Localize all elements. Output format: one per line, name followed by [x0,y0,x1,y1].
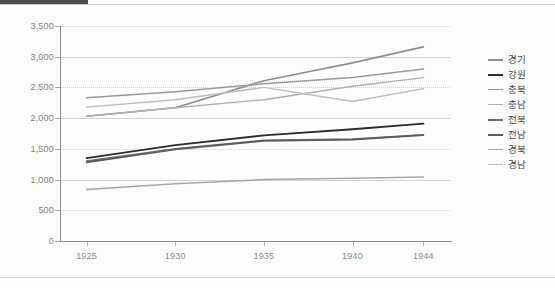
line-chart: 05001,0001,5002,0002,5003,0003,500 19251… [0,8,555,280]
y-axis-tick-label: 1,500 [8,144,54,154]
y-axis-tick-label: 2,000 [8,113,54,123]
x-axis-line [60,241,452,242]
legend-item-label: 충북 [508,85,526,95]
legend-item[interactable]: 충남 [488,97,552,112]
legend-item[interactable]: 충북 [488,82,552,97]
legend-swatch-icon [488,119,503,121]
x-axis-tick-label: 1940 [323,251,383,261]
chart-legend: 경기강원충북충남전북전남경북경남 [488,52,552,172]
x-axis-tick-label: 1925 [57,251,117,261]
x-axis-tick-label: 1930 [145,251,205,261]
y-axis-tick-label: 3,000 [8,52,54,62]
series-line [87,47,424,116]
series-line [87,177,424,189]
top-divider-rule [0,4,555,5]
legend-swatch-icon [488,149,503,150]
y-axis-tick-label: 2,500 [8,82,54,92]
chart-page: 05001,0001,5002,0002,5003,0003,500 19251… [0,0,555,288]
bottom-divider-rule [0,277,555,278]
legend-item-label: 전남 [508,130,526,140]
legend-swatch-icon [488,74,503,76]
series-line [87,135,424,162]
legend-swatch-icon [488,89,503,90]
x-axis-tick-label: 1944 [393,251,453,261]
y-axis-tick-label: 1,000 [8,175,54,185]
legend-swatch-icon [488,59,503,61]
series-lines [60,26,450,241]
y-axis-tick-label: 3,500 [8,21,54,31]
legend-item-label: 강원 [508,70,526,80]
x-axis-tick-label: 1935 [234,251,294,261]
legend-item[interactable]: 전남 [488,127,552,142]
legend-item[interactable]: 강원 [488,67,552,82]
legend-item[interactable]: 경남 [488,157,552,172]
y-axis-tick-mark [55,241,60,242]
y-axis-tick-label: 500 [8,205,54,215]
x-axis-tick-mark [87,241,88,246]
x-axis-tick-mark [423,241,424,246]
legend-item-label: 전북 [508,115,526,125]
legend-item-label: 경북 [508,145,526,155]
legend-swatch-icon [488,134,503,136]
legend-swatch-icon [488,104,503,105]
x-axis-tick-mark [264,241,265,246]
legend-item[interactable]: 경기 [488,52,552,67]
legend-item[interactable]: 경북 [488,142,552,157]
x-axis-tick-mark [175,241,176,246]
legend-item-label: 충남 [508,100,526,110]
y-axis-tick-label: 0 [8,236,54,246]
legend-item[interactable]: 전북 [488,112,552,127]
y-axis-tick-labels: 05001,0001,5002,0002,5003,0003,500 [0,26,54,241]
legend-item-label: 경기 [508,55,526,65]
x-axis-tick-mark [353,241,354,246]
legend-item-label: 경남 [508,160,526,170]
legend-swatch-icon [488,164,503,165]
series-line [87,87,424,107]
